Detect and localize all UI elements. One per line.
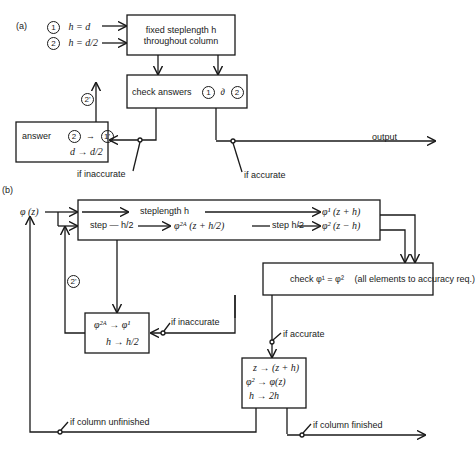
phi1-result: φ¹ (z + h) — [322, 207, 360, 217]
answer-box-line2: d → d/2 — [70, 147, 103, 157]
marker-1: 1 — [47, 21, 60, 34]
steplength-h: steplength h — [140, 207, 189, 216]
check-answers-text: check answers 1 ∂ 2 — [132, 86, 244, 99]
fixed-steplength-box — [127, 15, 235, 55]
step-half-2: step h/2 — [272, 221, 304, 230]
input-2: 2 h = d/2 — [47, 37, 98, 50]
fixed-box-line2: throughout column — [127, 37, 235, 46]
if-inaccurate-a: if inaccurate — [77, 170, 126, 179]
step-half: step — h/2 — [90, 221, 134, 230]
phi2a-mid: φ²ᴬ (z + h/2) — [174, 221, 224, 231]
if-inaccurate-b: if inaccurate — [171, 318, 220, 327]
advance-line2: φ² → φ(z) — [246, 377, 286, 387]
phi-input: φ (z) — [20, 207, 39, 217]
input-1: 1 h = d — [47, 21, 90, 34]
marker-2: 2 — [47, 37, 60, 50]
phi2-result: φ² (z − h) — [322, 221, 360, 231]
if-accurate-b: if accurate — [283, 330, 325, 339]
if-column-unfinished: if column unfinished — [70, 418, 150, 427]
advance-line3: h → 2h — [249, 391, 279, 401]
if-column-finished: if column finished — [313, 421, 383, 430]
halve-box-line2: h → h/2 — [106, 337, 139, 347]
feedback-marker-a: 2' — [81, 93, 94, 106]
output-label: output — [372, 133, 397, 142]
if-accurate-a: if accurate — [244, 171, 286, 180]
fixed-box-line1: fixed steplength h — [127, 26, 235, 35]
feedback-marker-b: 2' — [67, 275, 80, 288]
check-phi-text: check φ¹ = φ² (all elements to accuracy … — [290, 275, 475, 284]
answer-box-line1: answer 2 → 1' — [22, 130, 114, 143]
panel-a-label: (a) — [16, 22, 27, 31]
panel-b-label: (b) — [2, 186, 13, 195]
halve-box-line1: φ²ᴬ → φ¹ — [94, 320, 130, 330]
advance-line1: z → (z + h) — [253, 363, 299, 373]
